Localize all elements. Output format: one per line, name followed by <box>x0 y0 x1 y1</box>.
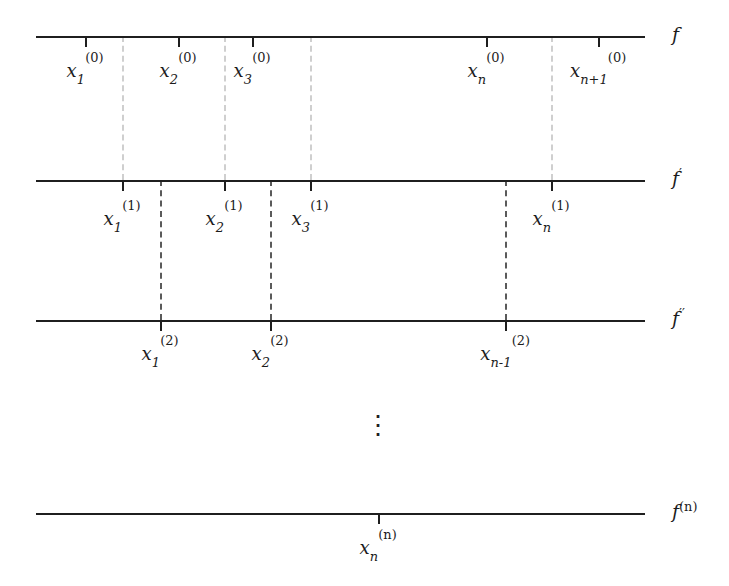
tick-xn-n <box>378 513 380 524</box>
axis-line-row-f-prime <box>36 180 645 182</box>
point-label-xn1-0: xn+1(0) <box>570 62 626 80</box>
point-label-superscript: (1) <box>551 198 569 213</box>
tick-x2-2 <box>270 320 272 331</box>
point-label-x1-0: x1(0) <box>67 62 104 80</box>
row-label-row-f-double-prime: f′′ <box>672 309 685 328</box>
point-label-superscript: (1) <box>224 198 242 213</box>
point-label-subscript: n <box>478 72 486 87</box>
point-label-subscript: 1 <box>114 220 122 235</box>
dash-x1-1 <box>160 180 162 320</box>
point-label-superscript: (0) <box>486 50 504 65</box>
point-label-superscript: (1) <box>310 198 328 213</box>
row-label-base: f <box>672 500 679 522</box>
point-label-base: x <box>533 208 543 229</box>
dash-x3-0 <box>310 36 312 180</box>
point-label-base: x <box>142 343 152 364</box>
point-label-superscript: (n) <box>378 527 396 542</box>
axis-line-row-f <box>36 36 645 38</box>
dash-x1-0 <box>122 36 124 180</box>
point-label-subscript: n <box>543 220 551 235</box>
row-label-base: f <box>672 307 679 329</box>
point-label-subscript: 1 <box>77 72 85 87</box>
point-label-xn1-2: xn-1(2) <box>480 345 529 363</box>
point-label-xn-n: xn(n) <box>360 539 397 557</box>
point-label-base: x <box>480 343 490 364</box>
point-label-subscript: 2 <box>170 72 178 87</box>
point-label-subscript: 3 <box>302 220 310 235</box>
point-label-subscript: 1 <box>152 355 160 370</box>
tick-xn-0 <box>486 36 488 47</box>
point-label-base: x <box>570 60 580 81</box>
point-label-base: x <box>252 343 262 364</box>
point-label-xn-1: xn(1) <box>533 210 570 228</box>
dash-xn-1 <box>505 180 507 320</box>
point-label-superscript: (2) <box>160 333 178 348</box>
point-label-x3-1: x3(1) <box>292 210 329 228</box>
point-label-base: x <box>104 208 114 229</box>
figure-canvas: x1(0)x2(0)x3(0)xn(0)xn+1(0)fx1(1)x2(1)x3… <box>0 0 729 586</box>
tick-x3-1 <box>310 180 312 191</box>
point-label-superscript: (0) <box>85 50 103 65</box>
tick-x1-2 <box>160 320 162 331</box>
row-label-superscript: (n) <box>679 499 697 514</box>
point-label-base: x <box>360 537 370 558</box>
point-label-x1-2: x1(2) <box>142 345 179 363</box>
tick-xn1-2 <box>505 320 507 331</box>
dash-xn-0 <box>551 36 553 180</box>
tick-xn-1 <box>551 180 553 191</box>
point-label-base: x <box>468 60 478 81</box>
point-label-superscript: (0) <box>608 50 626 65</box>
row-label-row-f-n: f(n) <box>672 502 697 521</box>
tick-xn1-0 <box>598 36 600 47</box>
point-label-subscript: 2 <box>262 355 270 370</box>
tick-x1-0 <box>85 36 87 47</box>
vertical-ellipsis: ⋮ <box>365 412 391 438</box>
tick-x2-0 <box>178 36 180 47</box>
point-label-x1-1: x1(1) <box>104 210 141 228</box>
point-label-superscript: (0) <box>178 50 196 65</box>
point-label-x3-0: x3(0) <box>234 62 271 80</box>
point-label-subscript: n <box>370 549 378 564</box>
point-label-subscript: n+1 <box>580 72 607 87</box>
point-label-x2-0: x2(0) <box>160 62 197 80</box>
point-label-superscript: (1) <box>122 198 140 213</box>
axis-line-row-f-n <box>36 513 645 515</box>
point-label-subscript: 3 <box>244 72 252 87</box>
dash-x2-1 <box>270 180 272 320</box>
point-label-base: x <box>67 60 77 81</box>
row-label-base: f <box>672 167 679 189</box>
point-label-base: x <box>234 60 244 81</box>
tick-x1-1 <box>122 180 124 191</box>
point-label-xn-0: xn(0) <box>468 62 505 80</box>
point-label-subscript: 2 <box>216 220 224 235</box>
point-label-x2-2: x2(2) <box>252 345 289 363</box>
point-label-superscript: (2) <box>512 333 530 348</box>
row-label-row-f-prime: f′ <box>672 169 682 188</box>
point-label-base: x <box>292 208 302 229</box>
axis-line-row-f-double-prime <box>36 320 645 322</box>
row-label-superscript: ′′ <box>679 306 685 321</box>
row-label-superscript: ′ <box>679 166 682 181</box>
point-label-superscript: (2) <box>270 333 288 348</box>
row-label-row-f: f <box>672 25 679 44</box>
row-label-base: f <box>672 23 679 45</box>
point-label-base: x <box>206 208 216 229</box>
point-label-superscript: (0) <box>252 50 270 65</box>
point-label-subscript: n-1 <box>490 355 511 370</box>
tick-x3-0 <box>252 36 254 47</box>
point-label-base: x <box>160 60 170 81</box>
point-label-x2-1: x2(1) <box>206 210 243 228</box>
dash-x2-0 <box>224 36 226 180</box>
tick-x2-1 <box>224 180 226 191</box>
